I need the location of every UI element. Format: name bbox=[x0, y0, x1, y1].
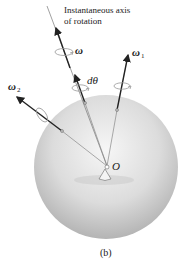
dtheta-vector bbox=[75, 75, 85, 103]
axis-label-line2: of rotation bbox=[64, 16, 102, 26]
omega2-subscript: 2 bbox=[17, 86, 21, 94]
omega-label: ω bbox=[75, 44, 83, 56]
omega-vector bbox=[56, 28, 70, 68]
origin-label: O bbox=[112, 160, 120, 172]
omega2-vector bbox=[17, 97, 62, 131]
omega2-label: ω2 bbox=[8, 80, 20, 96]
dtheta-label: dθ bbox=[87, 74, 98, 86]
omega2-rotation-icon bbox=[34, 106, 50, 124]
omega1-label: ω1 bbox=[132, 46, 144, 62]
omega1-symbol: ω bbox=[132, 46, 140, 58]
rigid-body-diagram bbox=[0, 0, 184, 261]
axis-label-line1: Instantaneous axis bbox=[64, 5, 130, 15]
figure-caption: (b) bbox=[100, 248, 112, 258]
origin-point bbox=[105, 165, 109, 169]
omega1-subscript: 1 bbox=[141, 52, 145, 60]
omega2-symbol: ω bbox=[8, 80, 16, 92]
